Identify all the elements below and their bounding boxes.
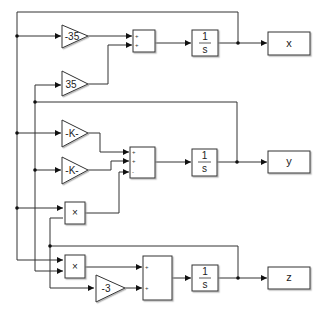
junction-dot xyxy=(48,244,52,248)
gain-block-z[interactable]: -3 xyxy=(96,275,125,302)
junction-dot xyxy=(33,168,37,172)
output-block-y[interactable]: y xyxy=(268,151,310,173)
wire-y-bus xyxy=(35,85,63,271)
junction-dot xyxy=(236,41,240,45)
sum-sign: + xyxy=(145,285,149,291)
sum-sign: + xyxy=(132,149,136,155)
sum-block-z[interactable]: + + xyxy=(143,256,172,300)
integrator-block-y[interactable]: 1 s xyxy=(192,149,217,176)
output-block-x[interactable]: x xyxy=(268,32,310,55)
output-block-z[interactable]: z xyxy=(268,267,310,289)
gain-label: -3 xyxy=(102,283,111,294)
junction-dot xyxy=(235,160,239,164)
output-label: y xyxy=(286,155,292,167)
sum-sign: + xyxy=(145,264,149,270)
output-label: z xyxy=(286,271,292,283)
integrator-numerator: 1 xyxy=(202,266,208,277)
gain-label: -K- xyxy=(65,165,78,176)
sum-sign: + xyxy=(135,42,139,48)
block-diagram: -35 35 -K- -K- -3 × × + + + + - + + xyxy=(0,0,323,316)
wire-gain-y2-to-sum-y xyxy=(88,161,129,170)
sum-block-y[interactable]: + + - xyxy=(130,147,155,178)
sum-sign: - xyxy=(132,169,134,175)
multiply-icon: × xyxy=(72,261,78,272)
integrator-denominator: s xyxy=(203,44,208,55)
gain-block-y1[interactable]: -K- xyxy=(62,120,88,147)
wire-gain-y1-to-sum-y xyxy=(88,133,129,152)
gain-block-x1[interactable]: -35 xyxy=(62,25,88,48)
junction-dot xyxy=(15,34,19,38)
integrator-denominator: s xyxy=(203,279,208,290)
integrator-numerator: 1 xyxy=(202,150,208,161)
junction-dot xyxy=(15,131,19,135)
wire-product1-to-sum-y xyxy=(85,172,129,213)
sum-block-x[interactable]: + + xyxy=(133,30,155,52)
junction-dot xyxy=(15,206,19,210)
gain-label: -35 xyxy=(65,31,80,42)
gain-label: 35 xyxy=(65,79,77,90)
junction-dot xyxy=(236,276,240,280)
output-label: x xyxy=(286,37,292,49)
gain-label: -K- xyxy=(65,128,78,139)
junction-dot xyxy=(33,100,37,104)
sum-sign: + xyxy=(135,33,139,39)
wire-gain-x2-to-sum-x xyxy=(88,45,132,84)
integrator-numerator: 1 xyxy=(202,31,208,42)
gain-block-y2[interactable]: -K- xyxy=(62,157,88,184)
integrator-block-x[interactable]: 1 s xyxy=(192,30,218,56)
integrator-denominator: s xyxy=(202,163,207,174)
sum-sign: + xyxy=(132,158,136,164)
multiply-icon: × xyxy=(72,207,78,218)
integrator-block-z[interactable]: 1 s xyxy=(192,265,218,291)
gain-block-x2[interactable]: 35 xyxy=(62,71,88,96)
product-block-1[interactable]: × xyxy=(65,202,85,224)
product-block-2[interactable]: × xyxy=(65,255,85,278)
